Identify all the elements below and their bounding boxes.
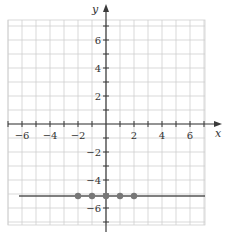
y-tick-label: −2 xyxy=(86,147,101,158)
y-tick-label: −4 xyxy=(86,175,101,186)
y-tick-label: 4 xyxy=(95,63,101,74)
data-point xyxy=(117,193,123,199)
x-axis-label: x xyxy=(215,127,222,140)
data-point xyxy=(89,193,95,199)
y-axis-arrow-icon xyxy=(103,4,109,12)
x-tick-label: −6 xyxy=(15,130,30,141)
data-point xyxy=(131,193,137,199)
data-point xyxy=(103,193,109,199)
data-point xyxy=(75,193,81,199)
y-axis-label: y xyxy=(91,3,99,16)
x-tick-label: −4 xyxy=(43,130,58,141)
y-tick-label: 2 xyxy=(95,91,101,102)
y-tick-label: −6 xyxy=(86,203,101,214)
x-tick-label: 6 xyxy=(187,130,193,141)
y-tick-label: 6 xyxy=(95,35,101,46)
coordinate-plane-chart: −6−4−2246−6−4−2246 x y xyxy=(0,0,226,232)
x-tick-label: 2 xyxy=(131,130,137,141)
x-tick-label: 4 xyxy=(159,130,165,141)
x-tick-label: −2 xyxy=(71,130,86,141)
